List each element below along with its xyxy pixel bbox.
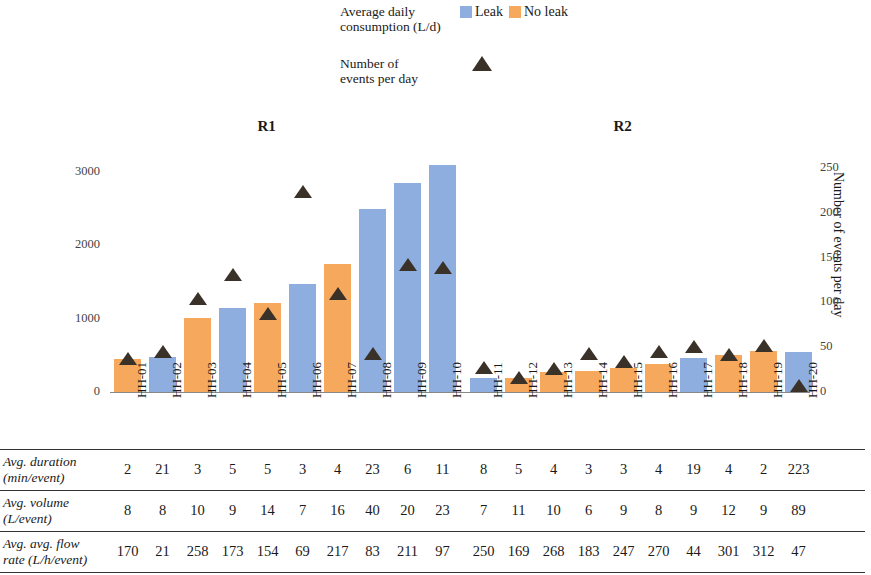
x-axis-label-HH-16: HH-16 — [665, 362, 681, 398]
table-cell: 9 — [216, 502, 250, 519]
table-bottom-divider — [0, 572, 865, 573]
event-marker-HH-19 — [755, 339, 773, 352]
event-marker-HH-16 — [650, 345, 668, 358]
table-cell: 8 — [642, 502, 676, 519]
y-axis-left-tick-3000: 3000 — [58, 164, 100, 179]
table-cell: 8 — [467, 461, 501, 478]
table-cell: 3 — [286, 461, 320, 478]
table-cell: 312 — [747, 543, 781, 560]
event-marker-HH-05 — [259, 307, 277, 320]
x-axis-label-HH-14: HH-14 — [595, 362, 611, 398]
table-cell: 173 — [216, 543, 250, 560]
table-cell: 217 — [321, 543, 355, 560]
table-row-divider — [0, 490, 865, 491]
table-row: Avg. volume(L/event)88109147164020237111… — [0, 490, 871, 531]
y-axis-right-tick-200: 200 — [820, 205, 862, 220]
y-axis-left-tick-0: 0 — [58, 384, 100, 399]
table-cell: 3 — [181, 461, 215, 478]
y-axis-right-tick-50: 50 — [820, 339, 862, 354]
table-cell: 4 — [712, 461, 746, 478]
table-row-label: Avg. avg. flowrate (L/h/event) — [3, 536, 115, 568]
table-cell: 4 — [642, 461, 676, 478]
data-table: Avg. duration(min/event)2213553423611854… — [0, 449, 871, 572]
table-cell: 69 — [286, 543, 320, 560]
table-cell: 223 — [782, 461, 816, 478]
table-row-label-line1: Avg. avg. flow — [3, 536, 80, 551]
table-cell: 23 — [426, 502, 460, 519]
table-row-label: Avg. volume(L/event) — [3, 495, 115, 527]
event-marker-HH-14 — [580, 347, 598, 360]
table-row-label-line1: Avg. volume — [3, 495, 69, 510]
table-cell: 154 — [251, 543, 285, 560]
x-axis-label-HH-18: HH-18 — [735, 362, 751, 398]
table-row-divider — [0, 449, 865, 450]
table-cell: 2 — [111, 461, 145, 478]
chart-legend: Average daily consumption (L/d) Leak No … — [340, 4, 640, 86]
table-cell: 6 — [391, 461, 425, 478]
table-cell: 8 — [146, 502, 180, 519]
table-cell: 44 — [677, 543, 711, 560]
x-axis-label-HH-03: HH-03 — [204, 362, 220, 398]
table-cell: 169 — [502, 543, 536, 560]
y-axis-right-tick-250: 250 — [820, 160, 862, 175]
table-cell: 83 — [356, 543, 390, 560]
table-cell: 268 — [537, 543, 571, 560]
legend-consumption-label: Average daily consumption (L/d) — [340, 4, 460, 34]
table-cell: 5 — [216, 461, 250, 478]
x-axis-label-HH-15: HH-15 — [630, 362, 646, 398]
x-axis-label-HH-10: HH-10 — [449, 362, 465, 398]
table-cell: 4 — [321, 461, 355, 478]
table-cell: 97 — [426, 543, 460, 560]
legend-swatch-leak — [460, 6, 472, 18]
table-row-label-line1: Avg. duration — [3, 454, 77, 469]
legend-events-label-line2: events per day — [340, 71, 418, 86]
x-axis-label-HH-13: HH-13 — [560, 362, 576, 398]
x-axis-label-HH-12: HH-12 — [525, 362, 541, 398]
table-cell: 211 — [391, 543, 425, 560]
table-cell: 40 — [356, 502, 390, 519]
y-axis-right-tick-0: 0 — [820, 384, 862, 399]
table-cell: 20 — [391, 502, 425, 519]
legend-events-label: Number of events per day — [340, 56, 460, 86]
table-cell: 14 — [251, 502, 285, 519]
table-cell: 7 — [467, 502, 501, 519]
table-cell: 10 — [537, 502, 571, 519]
table-cell: 5 — [251, 461, 285, 478]
table-row: Avg. duration(min/event)2213553423611854… — [0, 449, 871, 490]
x-axis-label-HH-06: HH-06 — [309, 362, 325, 398]
table-cell: 250 — [467, 543, 501, 560]
table-cell: 183 — [572, 543, 606, 560]
y-axis-right-tick-100: 100 — [820, 294, 862, 309]
table-cell: 19 — [677, 461, 711, 478]
event-marker-HH-09 — [399, 258, 417, 271]
table-cell: 12 — [712, 502, 746, 519]
x-axis-label-HH-17: HH-17 — [700, 362, 716, 398]
event-marker-HH-08 — [364, 347, 382, 360]
table-cell: 9 — [607, 502, 641, 519]
bar-HH-09 — [394, 183, 421, 392]
group-label-r2: R2 — [614, 118, 632, 135]
legend-consumption-label-line2: consumption (L/d) — [340, 19, 441, 34]
legend-consumption-label-line1: Average daily — [340, 4, 415, 19]
x-axis-label-HH-11: HH-11 — [490, 362, 506, 398]
event-marker-HH-02 — [154, 345, 172, 358]
table-cell: 11 — [426, 461, 460, 478]
table-cell: 3 — [572, 461, 606, 478]
table-cell: 247 — [607, 543, 641, 560]
table-row-label-line2: (min/event) — [3, 470, 64, 485]
x-axis-label-HH-01: HH-01 — [134, 362, 150, 398]
x-axis-label-HH-04: HH-04 — [239, 362, 255, 398]
legend-leak-label: Leak — [475, 5, 503, 19]
table-cell: 16 — [321, 502, 355, 519]
table-cell: 301 — [712, 543, 746, 560]
group-label-r1: R1 — [258, 118, 276, 135]
event-marker-HH-18 — [720, 348, 738, 361]
y-axis-right-tick-150: 150 — [820, 250, 862, 265]
table-cell: 9 — [677, 502, 711, 519]
table-cell: 3 — [607, 461, 641, 478]
y-axis-left-tick-2000: 2000 — [58, 237, 100, 252]
table-cell: 10 — [181, 502, 215, 519]
table-row-label-line2: rate (L/h/event) — [3, 552, 87, 567]
table-cell: 5 — [502, 461, 536, 478]
table-cell: 23 — [356, 461, 390, 478]
